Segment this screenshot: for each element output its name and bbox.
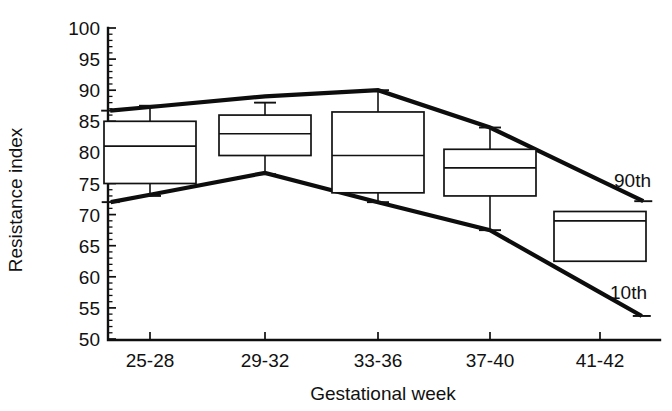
y-tick-label: 95	[79, 49, 100, 70]
box	[332, 112, 424, 193]
box-plot-25-28	[104, 106, 196, 196]
x-tick-label: 25-28	[126, 350, 175, 371]
box	[219, 115, 311, 155]
y-tick-label: 55	[79, 298, 100, 319]
box-plot-chart: Resistance index 50556065707580859095100…	[0, 0, 672, 411]
box	[444, 149, 536, 196]
x-axis-tick-labels: 25-2829-3233-3637-4041-42	[126, 350, 625, 371]
y-tick-label: 70	[79, 205, 100, 226]
box-plot-29-32	[219, 103, 311, 175]
y-tick-label: 50	[79, 329, 100, 350]
x-axis-title: Gestational week	[310, 383, 456, 404]
y-tick-label: 80	[79, 142, 100, 163]
box-plot-33-36	[332, 90, 424, 202]
x-tick-label: 29-32	[241, 350, 290, 371]
y-tick-label: 75	[79, 174, 100, 195]
chart-container: Resistance index 50556065707580859095100…	[0, 0, 672, 411]
percentile-label-10th: 10th	[610, 282, 647, 303]
y-tick-label: 100	[68, 18, 100, 39]
y-axis-title: Resistance index	[5, 127, 26, 272]
y-tick-label: 60	[79, 267, 100, 288]
percentile-label-90th: 90th	[614, 170, 651, 191]
y-tick-label: 90	[79, 80, 100, 101]
x-tick-label: 41-42	[576, 350, 625, 371]
y-axis-tick-labels: 50556065707580859095100	[68, 18, 100, 350]
box-plot-41-42	[554, 211, 646, 261]
x-tick-label: 33-36	[354, 350, 403, 371]
box-plots	[104, 90, 646, 261]
x-tick-label: 37-40	[466, 350, 515, 371]
y-tick-label: 85	[79, 111, 100, 132]
y-tick-label: 65	[79, 236, 100, 257]
box	[554, 211, 646, 261]
box	[104, 121, 196, 183]
